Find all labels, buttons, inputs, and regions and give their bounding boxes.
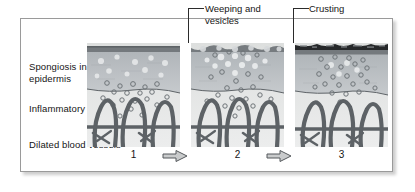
leader-line-weeping-vertical [188, 8, 189, 43]
histology-panel-1 [87, 43, 180, 147]
leader-line-crusting-vertical [293, 8, 294, 43]
histology-panel-2 [191, 43, 284, 147]
leader-line-crusting-horizontal [293, 8, 309, 9]
right-arrow-icon [162, 149, 188, 163]
leader-line-weeping-horizontal [188, 8, 204, 9]
right-arrow-icon [266, 149, 292, 163]
figure-frame: Spongiosis in epidermis Inflammatory cel… [20, 18, 393, 172]
figure-canvas: Spongiosis in epidermis Inflammatory cel… [0, 0, 415, 192]
histology-panel-3 [295, 43, 388, 147]
callout-label-crusting: Crusting [309, 3, 379, 15]
panel-number-3: 3 [295, 149, 388, 160]
callout-label-weeping-and-vesicles: Weeping and vesicles [205, 3, 285, 26]
